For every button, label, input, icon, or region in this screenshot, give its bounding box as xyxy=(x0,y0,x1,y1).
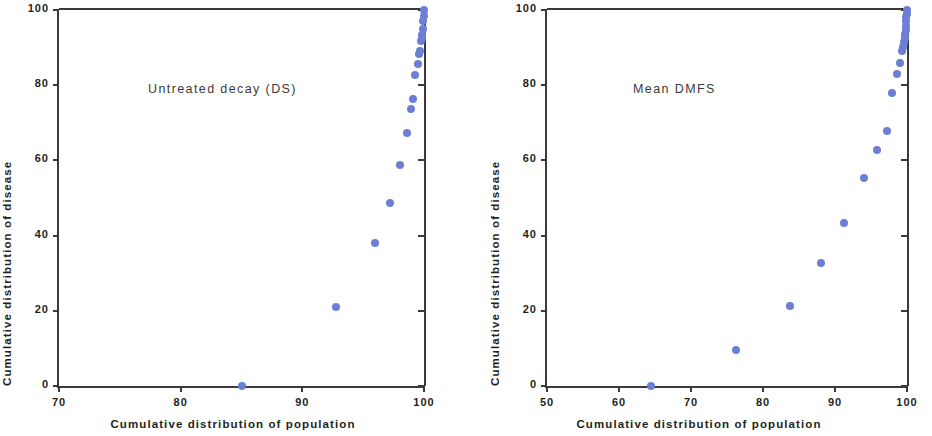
x-tick xyxy=(301,386,303,392)
y-tick-right xyxy=(901,235,907,237)
x-tick xyxy=(834,386,836,392)
y-tick-label: 60 xyxy=(499,152,537,164)
y-tick-right xyxy=(901,310,907,312)
data-point xyxy=(860,174,868,182)
x-axis-title-right: Cumulative distribution of population xyxy=(466,418,932,430)
plot-frame-right xyxy=(424,10,426,386)
y-tick-right xyxy=(901,84,907,86)
y-tick-label: 100 xyxy=(499,2,537,14)
data-point xyxy=(238,382,246,390)
data-point xyxy=(840,219,848,227)
y-tick xyxy=(53,235,59,237)
data-point xyxy=(407,105,415,113)
data-point xyxy=(893,70,901,78)
x-tick xyxy=(58,386,60,392)
data-point xyxy=(732,346,740,354)
y-tick-label: 0 xyxy=(11,378,49,390)
y-tick-label: 40 xyxy=(11,228,49,240)
y-tick-label: 60 xyxy=(11,152,49,164)
plot-frame-top xyxy=(547,8,907,10)
plot-frame-top xyxy=(59,8,424,10)
plot-area-right: 0204060801005060708090100 xyxy=(545,10,907,388)
data-point xyxy=(414,60,422,68)
x-tick-label: 70 xyxy=(666,396,716,408)
x-tick-label: 90 xyxy=(277,396,327,408)
x-tick xyxy=(423,386,425,392)
y-tick xyxy=(53,84,59,86)
panel-caption-right: Mean DMFS xyxy=(633,82,716,96)
data-point xyxy=(332,303,340,311)
y-tick xyxy=(53,310,59,312)
data-point xyxy=(903,6,911,14)
plot-area-left: 020406080100708090100 xyxy=(57,10,424,388)
x-axis-title-left: Cumulative distribution of population xyxy=(0,418,466,430)
figure-cumulative-distributions: 020406080100708090100 Untreated decay (D… xyxy=(0,0,932,436)
plot-frame-right xyxy=(907,10,909,386)
data-point xyxy=(647,382,655,390)
data-point xyxy=(403,129,411,137)
y-axis-title-right: Cumulative distribution of disease xyxy=(489,161,501,386)
y-tick xyxy=(53,9,59,11)
x-tick-label: 90 xyxy=(810,396,860,408)
y-tick xyxy=(541,159,547,161)
x-tick xyxy=(546,386,548,392)
data-point xyxy=(411,71,419,79)
y-tick-label: 100 xyxy=(11,2,49,14)
panel-mean-dmfs: 0204060801005060708090100 Mean DMFS Cumu… xyxy=(466,0,932,436)
data-point xyxy=(883,127,891,135)
x-tick xyxy=(690,386,692,392)
x-tick-label: 100 xyxy=(399,396,449,408)
y-tick xyxy=(53,159,59,161)
y-tick-right xyxy=(418,310,424,312)
x-tick-label: 50 xyxy=(522,396,572,408)
y-tick-label: 20 xyxy=(11,303,49,315)
x-tick-label: 100 xyxy=(882,396,932,408)
y-tick-label: 80 xyxy=(11,77,49,89)
data-point xyxy=(786,302,794,310)
data-point xyxy=(409,95,417,103)
data-point xyxy=(396,161,404,169)
y-tick-label: 40 xyxy=(499,228,537,240)
x-tick-label: 70 xyxy=(34,396,84,408)
y-tick-label: 20 xyxy=(499,303,537,315)
y-tick-label: 80 xyxy=(499,77,537,89)
y-tick-right xyxy=(418,159,424,161)
y-tick-label: 0 xyxy=(499,378,537,390)
y-tick-right xyxy=(418,84,424,86)
data-point xyxy=(896,59,904,67)
y-tick xyxy=(541,9,547,11)
y-axis-title-left: Cumulative distribution of disease xyxy=(1,161,13,386)
y-tick xyxy=(541,310,547,312)
y-tick xyxy=(541,235,547,237)
x-tick xyxy=(762,386,764,392)
data-point xyxy=(419,25,427,33)
x-tick-label: 80 xyxy=(156,396,206,408)
data-point xyxy=(817,259,825,267)
data-point xyxy=(873,146,881,154)
x-tick xyxy=(180,386,182,392)
x-tick xyxy=(906,386,908,392)
y-tick-right xyxy=(418,235,424,237)
y-tick-right xyxy=(901,159,907,161)
x-tick-label: 60 xyxy=(594,396,644,408)
data-point xyxy=(420,6,428,14)
panel-untreated-decay: 020406080100708090100 Untreated decay (D… xyxy=(0,0,466,436)
y-tick xyxy=(541,84,547,86)
data-point xyxy=(386,199,394,207)
data-point xyxy=(371,239,379,247)
data-point xyxy=(888,89,896,97)
x-tick-label: 80 xyxy=(738,396,788,408)
x-tick xyxy=(618,386,620,392)
data-point xyxy=(416,47,424,55)
panel-caption-left: Untreated decay (DS) xyxy=(148,82,297,96)
